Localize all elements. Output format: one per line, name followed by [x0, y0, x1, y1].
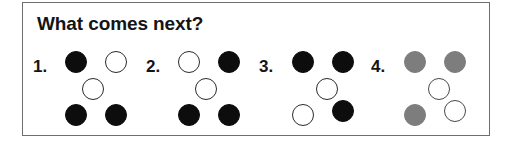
answer-option-label: 2. [146, 57, 160, 77]
dot-pattern [292, 51, 370, 129]
dot-bottom-right-open [444, 100, 466, 122]
answer-option-label: 4. [371, 57, 385, 77]
dot-top-left-filled [292, 51, 314, 73]
dot-top-left-filled [404, 51, 426, 73]
dot-top-right-open [105, 51, 127, 73]
dot-pattern [178, 51, 256, 129]
dot-top-right-filled [218, 51, 240, 73]
answer-option-label: 3. [259, 57, 273, 77]
answer-options-row: 1.2.3.4. [33, 51, 481, 129]
answer-option-label: 1. [33, 57, 47, 77]
dot-center-open [316, 78, 338, 100]
page-title: What comes next? [37, 13, 203, 35]
dot-pattern [65, 51, 143, 129]
dot-pattern [404, 51, 482, 129]
dot-bottom-left-open [292, 104, 314, 126]
dot-bottom-left-filled [65, 104, 87, 126]
dot-top-right-filled [444, 51, 466, 73]
dot-center-open [428, 78, 450, 100]
dot-bottom-right-filled [332, 100, 354, 122]
dot-top-left-open [178, 51, 200, 73]
dot-top-right-filled [332, 51, 354, 73]
dot-bottom-left-filled [178, 104, 200, 126]
dot-center-open [195, 78, 217, 100]
puzzle-card: What comes next? 1.2.3.4. [22, 2, 490, 136]
page-root: What comes next? 1.2.3.4. [0, 0, 507, 141]
dot-bottom-right-filled [105, 104, 127, 126]
dot-center-open [82, 78, 104, 100]
dot-bottom-right-filled [218, 104, 240, 126]
dot-bottom-left-filled [404, 104, 426, 126]
dot-top-left-filled [65, 51, 87, 73]
